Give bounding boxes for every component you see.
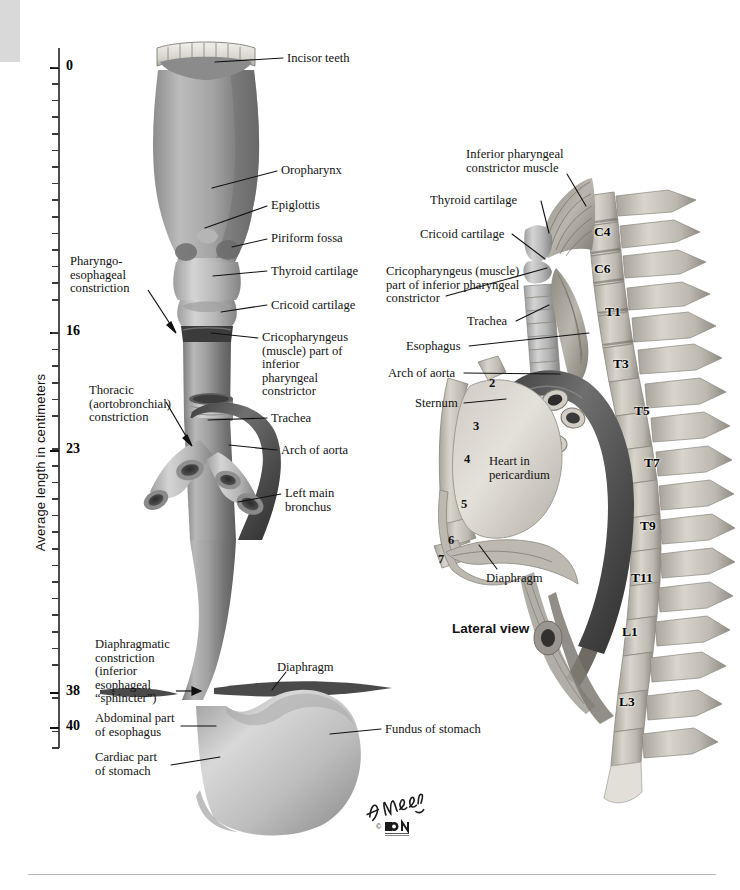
ruler-number: 0 — [66, 58, 73, 74]
vertebra-label-T9: T9 — [640, 518, 656, 534]
ruler-tick — [52, 415, 59, 417]
label-cricopharyngeus-r: Cricopharyngeus (muscle) part of inferio… — [386, 265, 519, 306]
ruler-tick — [52, 332, 59, 334]
label-pharyngoesophageal-constriction: Pharyngo- esophageal constriction — [70, 255, 129, 296]
label-fundus-of-stomach: Fundus of stomach — [385, 723, 481, 737]
rib-number-4: 4 — [464, 452, 470, 467]
ruler-tick — [52, 548, 59, 550]
ruler-tick — [52, 598, 59, 600]
label-arch-of-aorta: Arch of aorta — [281, 444, 348, 458]
ruler-tick — [52, 116, 59, 118]
ruler-tick — [52, 83, 59, 85]
ruler-tick — [52, 382, 59, 384]
label-thoracic-constriction: Thoracic (aortobronchial) constriction — [89, 384, 171, 425]
label-thyroid-cartilage-r: Thyroid cartilage — [430, 194, 517, 208]
label-cricoid-cartilage: Cricoid cartilage — [271, 299, 355, 313]
ruler-number: 40 — [66, 718, 80, 734]
label-thyroid-cartilage: Thyroid cartilage — [271, 265, 358, 279]
rib-number-3: 3 — [473, 419, 479, 434]
ruler-tick — [52, 498, 59, 500]
label-oropharynx: Oropharynx — [281, 164, 342, 178]
ruler-tick — [52, 133, 59, 135]
label-abdominal-part-esophagus: Abdominal part of esophagus — [95, 712, 174, 739]
rib-number-6: 6 — [448, 533, 454, 548]
ruler-tick — [52, 581, 59, 583]
rib-number-2: 2 — [489, 376, 495, 391]
vertebra-label-C6: C6 — [594, 261, 611, 277]
vertebra-label-T3: T3 — [613, 356, 629, 372]
ruler-tick — [52, 399, 59, 401]
label-diaphragmatic-constriction: Diaphragmatic constriction (inferior eso… — [95, 638, 170, 706]
ruler-tick — [52, 365, 59, 367]
ruler-tick — [52, 697, 59, 699]
label-esophagus-r: Esophagus — [406, 340, 461, 354]
ruler-tick — [52, 282, 59, 284]
ruler-number: 16 — [66, 323, 80, 339]
ruler-tick — [52, 150, 59, 152]
ruler-number: 23 — [66, 441, 80, 457]
plate-page: Average length in centimeters 016233840 … — [0, 0, 740, 890]
label-diaphragm-left: Diaphragm — [277, 661, 334, 675]
label-trachea-r: Trachea — [467, 315, 507, 329]
axis-title: Average length in centimeters — [33, 353, 48, 573]
ruler-tick — [52, 747, 59, 749]
label-cardiac-part-stomach: Cardiac part of stomach — [95, 751, 157, 778]
vertebra-label-L3: L3 — [619, 694, 635, 710]
svg-text:©: © — [376, 823, 382, 830]
label-left-main-bronchus: Left main bronchus — [285, 487, 334, 514]
ruler-tick — [52, 100, 59, 102]
label-trachea: Trachea — [271, 412, 311, 426]
ruler-tick — [52, 216, 59, 218]
ruler-tick — [52, 183, 59, 185]
ruler-tick — [52, 565, 59, 567]
vertebra-label-T7: T7 — [644, 455, 660, 471]
artist-signature: © — [362, 788, 432, 836]
vertebra-label-T1: T1 — [605, 304, 621, 320]
label-epiglottis: Epiglottis — [271, 199, 320, 213]
ruler-tick — [52, 465, 59, 467]
label-inferior-pharyngeal-constrictor-muscle: Inferior pharyngeal constrictor muscle — [466, 148, 564, 175]
ruler-tick — [52, 515, 59, 517]
ruler-tick — [50, 727, 59, 729]
ruler-number: 38 — [66, 683, 80, 699]
ruler-tick — [52, 67, 59, 69]
ruler-tick — [52, 631, 59, 633]
ruler-tick — [52, 166, 59, 168]
ruler-tick — [52, 482, 59, 484]
label-piriform-fossa: Piriform fossa — [271, 232, 343, 246]
ruler-tick — [52, 664, 59, 666]
ruler-tick — [50, 692, 59, 694]
vertebra-label-L1: L1 — [622, 624, 638, 640]
label-diaphragm-r: Diaphragm — [486, 572, 543, 586]
ruler-tick — [52, 531, 59, 533]
vertebra-label-C4: C4 — [594, 224, 611, 240]
ruler-tick — [52, 233, 59, 235]
ruler-tick — [50, 450, 59, 452]
label-heart-in-pericardium: Heart in pericardium — [489, 455, 550, 482]
rib-number-5: 5 — [461, 497, 467, 512]
ruler-tick — [52, 448, 59, 450]
label-incisor-teeth: Incisor teeth — [287, 52, 350, 66]
vertebra-label-T11: T11 — [631, 570, 653, 586]
label-cricopharyngeus: Cricopharyngeus (muscle) part of inferio… — [262, 331, 348, 399]
ruler-tick — [52, 199, 59, 201]
ruler-tick — [52, 614, 59, 616]
rib-number-7: 7 — [438, 552, 444, 567]
label-arch-of-aorta-r: Arch of aorta — [388, 367, 455, 381]
lateral-view-caption: Lateral view — [452, 622, 529, 636]
label-cricoid-cartilage-r: Cricoid cartilage — [420, 228, 504, 242]
ruler-tick — [52, 249, 59, 251]
ruler-tick — [52, 648, 59, 650]
ruler-tick — [52, 266, 59, 268]
vertebra-label-T5: T5 — [634, 403, 650, 419]
ruler-tick — [52, 349, 59, 351]
ruler-tick — [52, 731, 59, 733]
ruler-tick — [52, 299, 59, 301]
label-sternum: Sternum — [415, 397, 458, 411]
